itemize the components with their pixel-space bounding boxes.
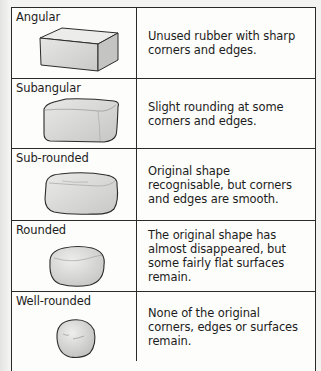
shape-cell: Subangular — [12, 79, 137, 148]
description-cell: None of the original corners, edges or s… — [137, 292, 315, 362]
shape-cell: Sub-rounded — [12, 149, 137, 220]
roundness-table: Angular Unused rubber with sharp corners… — [11, 7, 316, 363]
subrounded-block-icon — [40, 169, 124, 217]
shape-cell: Angular — [12, 8, 137, 78]
row-label: Well-rounded — [16, 294, 91, 308]
description-cell: Original shape recognisable, but corners… — [137, 149, 315, 220]
row-description: Slight rounding at some corners and edge… — [148, 100, 309, 128]
row-description: None of the original corners, edges or s… — [148, 306, 309, 348]
page-edge — [0, 0, 8, 371]
table-row: Subangular Slight rounding at some corne… — [12, 79, 315, 149]
table-row: Rounded The original shape has almost di… — [12, 221, 315, 292]
rounded-pebble-icon — [46, 243, 108, 289]
well-rounded-pebble-icon — [54, 316, 98, 360]
row-description: The original shape has almost disappeare… — [148, 228, 309, 284]
shape-cell: Rounded — [12, 221, 137, 291]
row-label: Angular — [16, 10, 60, 24]
description-cell: Unused rubber with sharp corners and edg… — [137, 8, 315, 78]
description-cell: The original shape has almost disappeare… — [137, 221, 315, 291]
row-description: Original shape recognisable, but corners… — [148, 164, 309, 206]
row-label: Rounded — [16, 223, 66, 237]
row-label: Subangular — [16, 81, 81, 95]
table-row: Angular Unused rubber with sharp corners… — [12, 8, 315, 79]
subangular-block-icon — [38, 97, 124, 145]
table-continuation — [11, 361, 316, 371]
row-description: Unused rubber with sharp corners and edg… — [148, 29, 309, 57]
row-label: Sub-rounded — [16, 151, 89, 165]
table-row: Well-rounded None of the original corner… — [12, 292, 315, 363]
shape-cell: Well-rounded — [12, 292, 137, 362]
angular-block-icon — [36, 24, 122, 74]
description-cell: Slight rounding at some corners and edge… — [137, 79, 315, 148]
table-row: Sub-rounded Original shape recognisable,… — [12, 149, 315, 221]
